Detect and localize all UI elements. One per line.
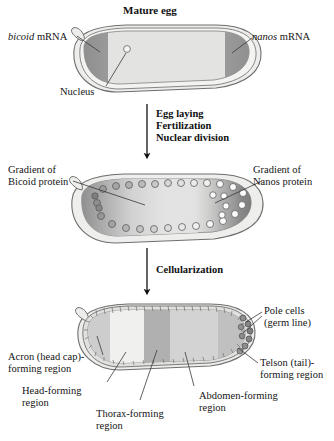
acron-label-line1: Acron (head cap)- [8,351,84,363]
arrow1-line1: Egg laying [156,108,204,120]
nucleus-label: Nucleus [60,86,94,98]
nanos-mrna-suffix: mRNA [277,31,310,42]
arrow2-line1: Cellularization [156,264,223,276]
arrow1-line3: Nuclear division [156,132,229,144]
bicoid-gradient-label-line1: Gradient of [8,164,56,176]
stage2-protein-gradients [69,174,263,243]
band-head [110,305,144,367]
stage1-mature-egg [71,25,261,92]
nanos-gene-name: nanos [252,31,277,42]
stage3-cellular-blastoderm [75,304,262,400]
nanos-gradient-label-line2: Nanos protein [253,176,312,188]
abdomen-label-line1: Abdomen-forming [199,390,278,402]
nanos-mrna-label: nanos mRNA [252,31,310,43]
telson-label-line1: Telson (tail)- [260,357,314,369]
thorax-label-line2: region [96,420,123,432]
bicoid-mrna-label: bicoid mRNA [8,31,67,43]
band-thorax [144,305,170,367]
bicoid-gradient-label-line2: Bicoid protein [8,176,68,188]
nucleus [124,46,131,53]
micropyle [71,28,84,41]
bicoid-mrna-suffix: mRNA [34,31,67,42]
pole-cells-label-line2: (germ line) [264,317,311,329]
pole-cells-label-line1: Pole cells [264,305,305,317]
head-label-line2: region [22,397,49,409]
nanos-gradient-label-line1: Gradient of [253,164,301,176]
stage1-title: Mature egg [123,4,177,16]
abdomen-label-line2: region [199,402,226,414]
telson-label-line2: forming region [260,369,323,381]
bicoid-gene-name: bicoid [8,31,34,42]
acron-label-line2: forming region [8,363,71,375]
head-label-line1: Head-forming [22,385,81,397]
thorax-label-line1: Thorax-forming [96,408,164,420]
band-abdomen [170,305,218,367]
egg-cytoplasm [84,31,249,84]
arrow1-line2: Fertilization [156,120,211,132]
developmental-biology-figure: Mature egg bicoid mRNA nanos mRNA Nucleu… [0,0,334,441]
